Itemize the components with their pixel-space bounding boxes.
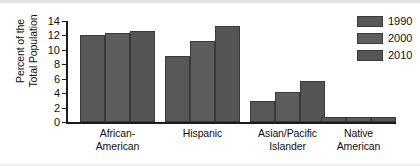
legend-item-1990: 1990 <box>357 14 419 29</box>
x-category-label-hispanic: Hispanic <box>155 127 250 140</box>
bar-group-hispanic <box>165 21 240 122</box>
bar-chart: Percent of the Total Population 0 2 4 6 … <box>0 0 420 166</box>
legend-swatch-1990 <box>357 16 383 27</box>
legend: 1990 2000 2010 <box>357 14 419 65</box>
bar-african-american-2010 <box>130 31 155 122</box>
bar-native-american-2000 <box>346 117 371 122</box>
bar-asian-pacific-islander-1990 <box>250 101 275 122</box>
bar-hispanic-1990 <box>165 56 190 122</box>
bar-african-american-1990 <box>80 35 105 122</box>
legend-label-1990: 1990 <box>388 16 412 27</box>
bar-group-african-american <box>80 21 155 122</box>
legend-label-2000: 2000 <box>388 33 412 44</box>
x-category-label-native-american: Native American <box>311 127 406 152</box>
y-tick-label-2: 2 <box>54 102 60 113</box>
legend-item-2000: 2000 <box>357 31 419 46</box>
y-tick-label-8: 8 <box>54 59 60 70</box>
y-tick-label-4: 4 <box>54 88 60 99</box>
plot-area: 0 2 4 6 8 10 12 14 African- American <box>66 21 396 122</box>
bar-native-american-2010 <box>371 117 396 122</box>
legend-label-2010: 2010 <box>388 50 412 61</box>
x-category-label-african-american: African- American <box>70 127 165 152</box>
bar-asian-pacific-islander-2000 <box>275 92 300 122</box>
y-tick-label-12: 12 <box>48 30 60 41</box>
x-axis-line <box>66 122 396 124</box>
legend-swatch-2010 <box>357 50 383 61</box>
legend-swatch-2000 <box>357 33 383 44</box>
bar-native-american-1990 <box>321 117 346 122</box>
bar-hispanic-2010 <box>215 26 240 122</box>
y-tick-label-6: 6 <box>54 73 60 84</box>
y-tick-label-14: 14 <box>48 16 60 27</box>
scan-edge-bottom <box>0 164 420 166</box>
scan-edge-top <box>0 0 420 3</box>
bar-hispanic-2000 <box>190 41 215 122</box>
legend-item-2010: 2010 <box>357 48 419 63</box>
y-axis-line <box>66 21 68 122</box>
y-axis-title: Percent of the Total Population <box>14 0 44 107</box>
bar-african-american-2000 <box>105 33 130 122</box>
y-tick-label-10: 10 <box>48 44 60 55</box>
y-tick-label-0: 0 <box>54 117 60 128</box>
bar-group-asian-pacific-islander <box>250 21 325 122</box>
